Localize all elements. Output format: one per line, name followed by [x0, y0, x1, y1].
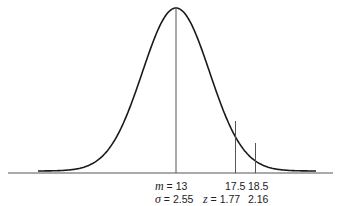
mean-symbol: m	[155, 179, 164, 193]
z1-label: z = 1.77	[203, 193, 240, 205]
x1-label: 17.5	[225, 180, 245, 192]
sigma-value: = 2.55	[161, 193, 193, 205]
z2-label: 2.16	[248, 193, 268, 205]
mean-value: = 13	[164, 180, 188, 192]
mean-label: m = 13	[155, 180, 187, 192]
normal-curve-diagram	[0, 0, 341, 206]
normal-curve	[38, 8, 316, 171]
z1-value: = 1.77	[208, 193, 240, 205]
sigma-label: σ = 2.55	[155, 193, 193, 205]
x2-label: 18.5	[248, 180, 268, 192]
